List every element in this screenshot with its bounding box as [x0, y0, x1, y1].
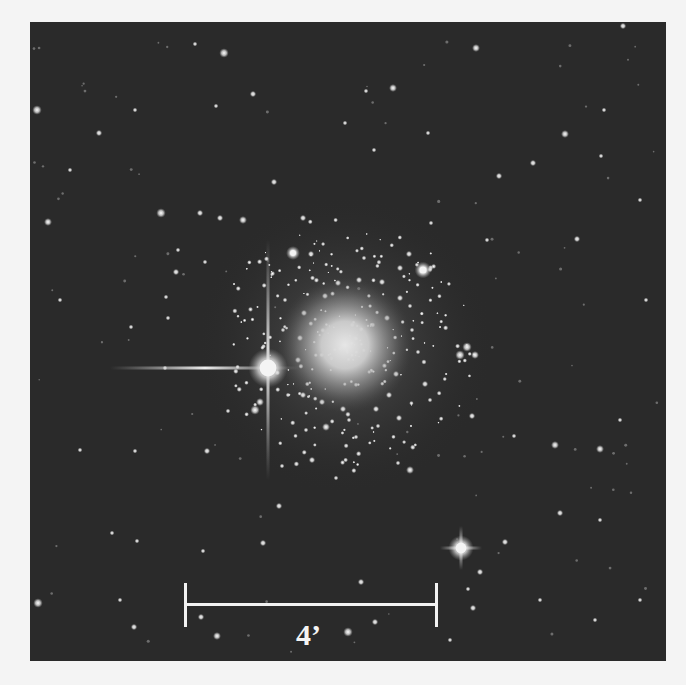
- scale-bar-right-tick: [435, 583, 438, 627]
- cluster-photograph: [30, 22, 666, 661]
- cluster-core: [278, 278, 413, 413]
- star-field: [30, 22, 666, 661]
- scale-bar-left-tick: [184, 583, 187, 627]
- scale-bar-line: [185, 603, 436, 606]
- scale-bar-label: 4’: [296, 620, 321, 650]
